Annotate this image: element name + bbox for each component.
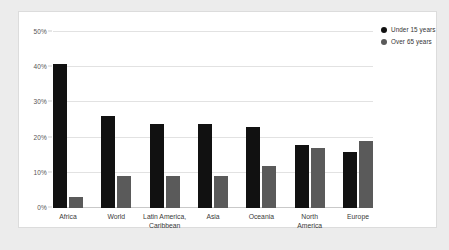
bar xyxy=(262,166,276,208)
y-axis-tick-label: 30% xyxy=(33,98,47,105)
bar-group: Africa xyxy=(53,32,83,208)
chart-legend: Under 15 yearsOver 65 years xyxy=(381,26,435,50)
bar xyxy=(69,197,83,208)
bar-group: Oceania xyxy=(246,32,276,208)
chart-panel: 0%10%20%30%40%50% AfricaWorldLatin Ameri… xyxy=(18,11,437,228)
bar xyxy=(343,152,357,208)
legend-label: Under 15 years xyxy=(391,26,435,33)
y-axis-tick-label: 50% xyxy=(33,28,47,35)
legend-item[interactable]: Over 65 years xyxy=(381,38,435,45)
bar xyxy=(246,127,260,208)
bar xyxy=(117,176,131,208)
y-axis-tick-mark xyxy=(48,136,52,137)
y-axis-tick-mark xyxy=(48,171,52,172)
y-axis-tick-mark xyxy=(48,101,52,102)
bar xyxy=(214,176,228,208)
bar xyxy=(53,64,67,208)
bar xyxy=(101,116,115,208)
bar-group: North America xyxy=(295,32,325,208)
bar xyxy=(150,124,164,208)
bar xyxy=(295,145,309,208)
y-axis-tick-label: 40% xyxy=(33,63,47,70)
y-axis-tick-mark xyxy=(48,31,52,32)
bar xyxy=(359,141,373,208)
bar xyxy=(311,148,325,208)
bar-group: Europe xyxy=(343,32,373,208)
x-axis-category-label: Europe xyxy=(326,213,390,222)
y-axis-tick-mark xyxy=(48,207,52,208)
legend-label: Over 65 years xyxy=(391,38,432,45)
y-axis-tick-label: 0% xyxy=(37,204,47,211)
y-axis-tick-label: 10% xyxy=(33,168,47,175)
y-axis-tick-label: 20% xyxy=(33,133,47,140)
legend-item[interactable]: Under 15 years xyxy=(381,26,435,33)
bar-group: World xyxy=(101,32,131,208)
legend-marker-circle-icon xyxy=(381,27,387,33)
legend-marker-circle-icon xyxy=(381,39,387,45)
y-axis-tick-mark xyxy=(48,66,52,67)
bar xyxy=(198,124,212,208)
bar xyxy=(166,176,180,208)
bar-group: Latin America, Caribbean xyxy=(150,32,180,208)
plot-area: 0%10%20%30%40%50% AfricaWorldLatin Ameri… xyxy=(53,32,373,208)
bar-group: Asia xyxy=(198,32,228,208)
